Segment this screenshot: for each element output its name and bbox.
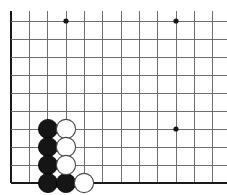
stone-black[interactable] xyxy=(38,119,57,138)
star-point-right-icon xyxy=(173,126,178,131)
grid-vertical-lines xyxy=(11,11,212,183)
stone-black[interactable] xyxy=(38,137,57,156)
go-board-diagram xyxy=(0,0,227,195)
stone-white[interactable] xyxy=(74,173,93,192)
stone-black[interactable] xyxy=(56,173,75,192)
goban-svg[interactable] xyxy=(0,0,227,195)
star-point-top-left-icon xyxy=(63,18,68,23)
star-point-top-right-icon xyxy=(173,18,178,23)
stone-black[interactable] xyxy=(38,155,57,174)
stone-white[interactable] xyxy=(56,155,75,174)
stone-white[interactable] xyxy=(56,119,75,138)
stones-group[interactable] xyxy=(38,119,93,192)
stone-white[interactable] xyxy=(56,137,75,156)
stone-black[interactable] xyxy=(38,173,57,192)
